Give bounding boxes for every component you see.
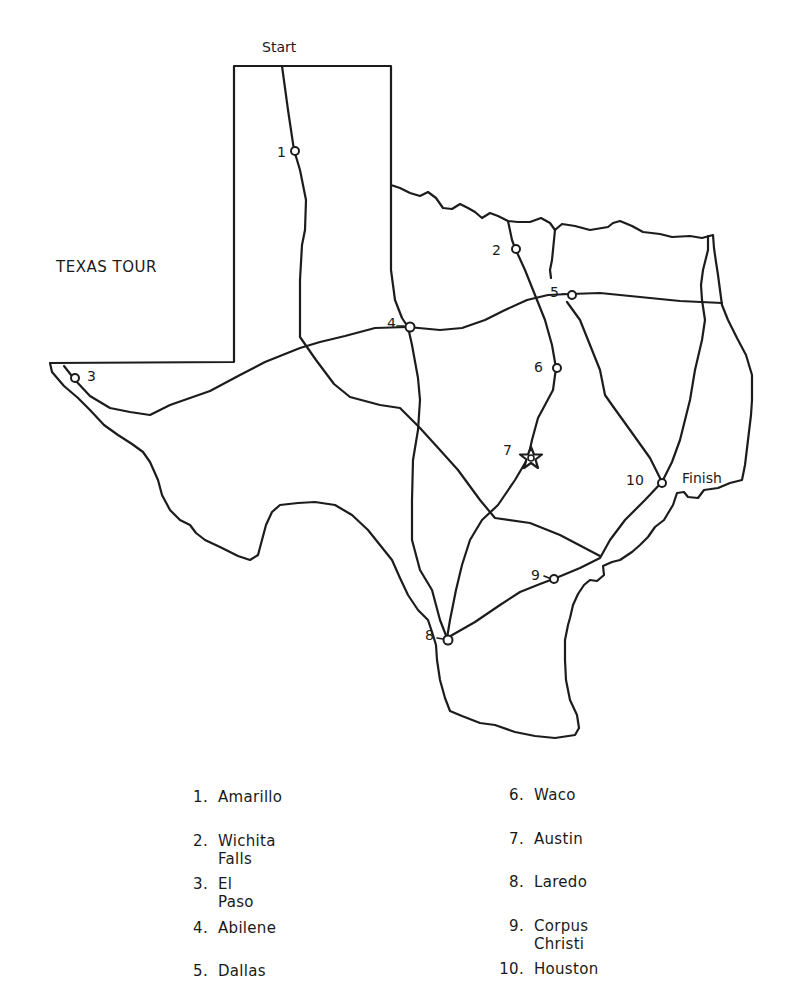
legend-name: Abilene [218,919,276,937]
road-corpus-laredo [447,578,556,638]
texas-map [0,0,793,760]
legend-name: Dallas [218,962,266,980]
map-label-7: 7 [503,443,512,457]
state-outline [50,66,752,738]
map-label-4: 4 [387,316,396,330]
city-marker-8[interactable] [444,636,453,645]
road-abilene-laredo [391,185,447,638]
legend-name: Houston [534,960,598,978]
legend-number: 4. [168,919,208,937]
road-ne-houston [662,236,708,482]
city-marker-3[interactable] [71,374,79,382]
city-marker-2[interactable] [512,245,520,253]
legend-name: Wichita Falls [218,832,276,868]
legend-name: Amarillo [218,788,282,806]
legend-name: Corpus Christi [534,917,588,953]
road-dallas-north [550,230,555,278]
map-label-1: 1 [277,145,286,159]
map-label-3: 3 [87,369,96,383]
city-marker-4[interactable] [406,323,415,332]
city-marker-9[interactable] [550,575,558,583]
road-dallas-houston [567,302,662,482]
map-title: TEXAS TOUR [56,258,157,276]
map-label-10: 10 [626,473,644,487]
legend-number: 9. [484,917,524,935]
finish-label: Finish [682,471,722,485]
city-marker-5[interactable] [568,291,576,299]
legend-number: 1. [168,788,208,806]
map-label-6: 6 [534,360,543,374]
legend-number: 2. [168,832,208,850]
legend-name: Waco [534,786,576,804]
city-marker-6[interactable] [553,364,561,372]
legend-number: 10. [484,960,524,978]
legend-name: El Paso [218,875,254,911]
start-label: Start [262,40,296,54]
legend-number: 6. [484,786,524,804]
city-marker-10[interactable] [658,479,666,487]
map-label-2: 2 [492,243,501,257]
map-label-9: 9 [531,568,540,582]
legend-number: 8. [484,873,524,891]
road-start-amarillo [282,66,600,556]
legend-name: Laredo [534,873,587,891]
map-label-8: 8 [425,628,434,642]
map-label-5: 5 [550,285,559,299]
city-marker-1[interactable] [291,147,299,155]
road-abilene-dallas-east [408,293,722,330]
legend-number: 3. [168,875,208,893]
road-elpaso-abilene [64,327,408,415]
legend-number: 7. [484,830,524,848]
legend-name: Austin [534,830,583,848]
legend-number: 5. [168,962,208,980]
